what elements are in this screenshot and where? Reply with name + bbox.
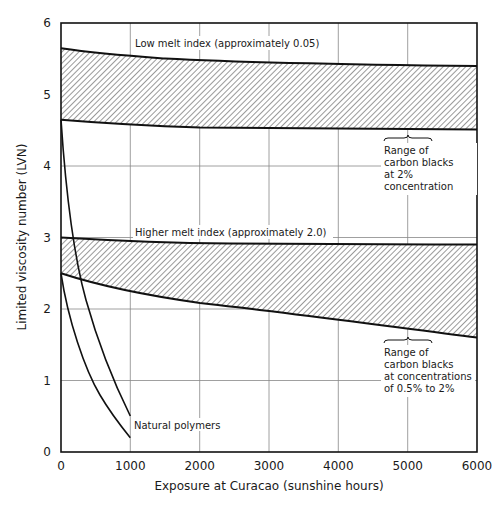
x-tick-labels: 0 1000 2000 3000 4000 5000 6000 [57,459,492,473]
svg-text:3: 3 [43,231,51,245]
natural-polymers-label: Natural polymers [134,420,220,431]
svg-text:5: 5 [43,88,51,102]
svg-text:1: 1 [43,374,51,388]
x-axis-label: Exposure at Curacao (sunshine hours) [154,479,383,493]
svg-text:carbon blacks: carbon blacks [384,157,453,168]
svg-text:at concentrations: at concentrations [384,371,472,382]
svg-text:4000: 4000 [323,459,354,473]
svg-text:5000: 5000 [392,459,423,473]
svg-text:Range of: Range of [384,347,429,358]
svg-text:of 0.5% to 2%: of 0.5% to 2% [384,383,454,394]
y-tick-labels: 0 1 2 3 4 5 6 [43,16,51,459]
svg-text:4: 4 [43,159,51,173]
y-axis-label: Limited viscosity number (LVN) [15,144,29,331]
svg-text:2: 2 [43,302,51,316]
svg-text:0: 0 [57,459,65,473]
svg-text:3000: 3000 [254,459,285,473]
natural-polymer-curve-2 [61,273,130,437]
svg-text:1000: 1000 [115,459,146,473]
svg-text:2000: 2000 [184,459,215,473]
svg-text:at 2%: at 2% [384,169,413,180]
high-melt-label: Higher melt index (approximately 2.0) [135,227,327,238]
chart: 0 1 2 3 4 5 6 0 1000 2000 3000 4000 5000… [0,0,504,508]
svg-text:6000: 6000 [462,459,493,473]
low-melt-label: Low melt index (approximately 0.05) [135,38,319,49]
svg-text:concentration: concentration [384,181,453,192]
svg-text:Range of: Range of [384,145,429,156]
svg-text:carbon blacks: carbon blacks [384,359,453,370]
svg-text:6: 6 [43,16,51,30]
svg-text:0: 0 [43,445,51,459]
